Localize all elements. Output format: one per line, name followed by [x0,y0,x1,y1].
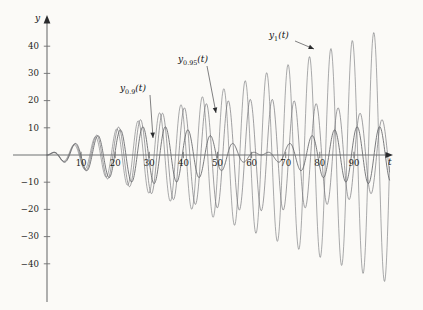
label-y-0-95-leader [207,66,216,113]
label-y-0-9-subscript: 0.9 [125,88,135,96]
x-tick-label: 30 [141,159,157,168]
label-y-0-95-arrowhead [213,107,218,113]
x-tick-label: 10 [73,159,89,168]
x-tick-label: 90 [346,159,362,168]
x-tick-label: 60 [244,159,260,168]
y-axis-name: y [35,14,40,23]
x-tick-label: 40 [175,159,191,168]
x-tick-label: 50 [210,159,226,168]
x-tick-label: 70 [278,159,294,168]
x-tick-label: 20 [107,159,123,168]
label-y-0-9-arrowhead [150,132,155,138]
label-y-1: y1(t) [269,31,289,42]
y-tick-label: 10 [11,124,39,133]
y-tick-label: −10 [11,178,39,187]
label-y-0-95-arg: (t) [197,54,208,64]
label-y-0-95-subscript: 0.95 [183,59,197,67]
plot-canvas [0,0,423,310]
label-y-0-9-leader [150,95,153,138]
annotation-leaders [150,41,314,138]
y-tick-label: 30 [11,69,39,78]
y-tick-label: −40 [11,260,39,269]
y-axis-arrowhead [44,15,51,24]
label-y-1-arg: (t) [278,30,289,40]
y-tick-label: −30 [11,232,39,241]
x-tick-label: 80 [312,159,328,168]
y-tick-label: 20 [11,96,39,105]
y-tick-label: 40 [11,42,39,51]
resonance-beats-figure: 40302010−10−20−30−40102030405060708090y0… [0,0,423,310]
label-y-0-95: y0.95(t) [178,55,208,66]
y-tick-label: −20 [11,205,39,214]
x-axis-name: t [388,158,392,167]
label-y-0-9-arg: (t) [135,83,146,93]
label-y-0-9: y0.9(t) [120,84,146,95]
